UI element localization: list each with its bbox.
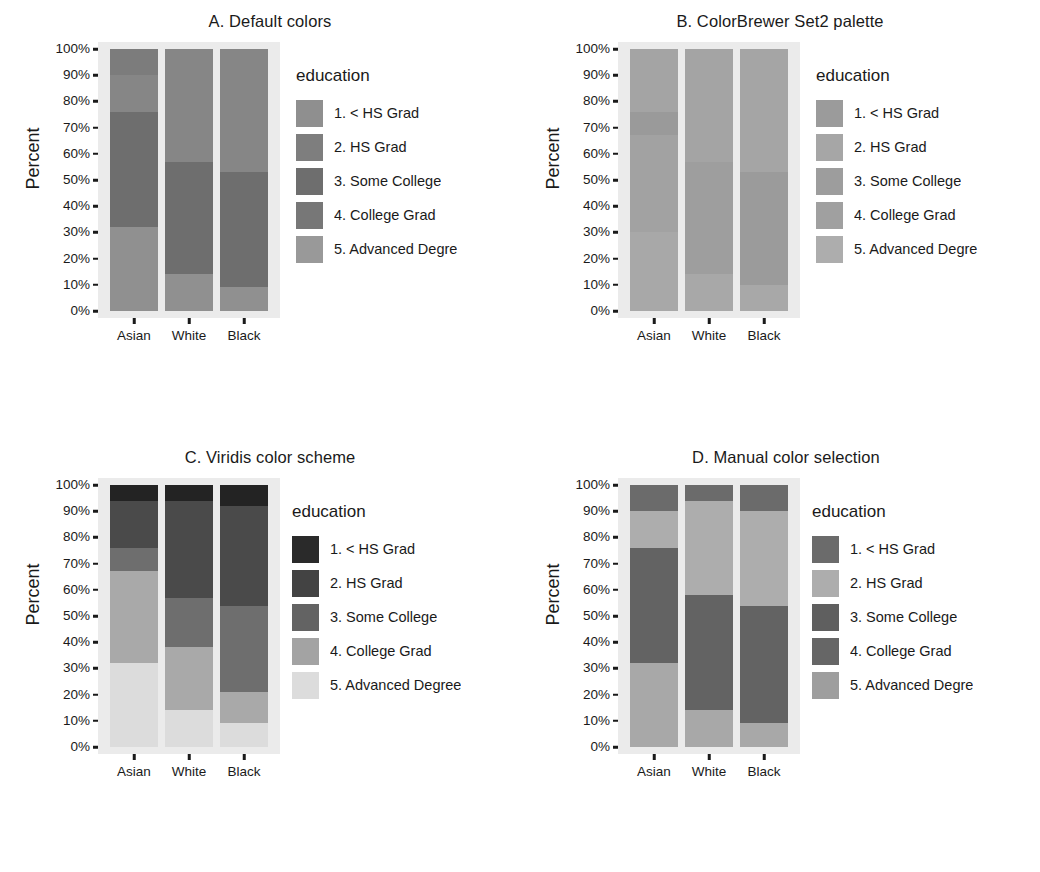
y-tick-label: 30% (63, 226, 90, 240)
stacked-bar-white (685, 49, 733, 311)
y-tick-label: 10% (583, 714, 610, 728)
panel-b: B. ColorBrewer Set2 palette Percent 0%10… (520, 0, 1040, 436)
x-tick-mark (188, 318, 191, 324)
panel-d: D. Manual color selection Percent 0%10%2… (520, 436, 1040, 872)
bar-segment (740, 49, 788, 172)
panel-a: A. Default colors Percent 0%10%20%30%40%… (0, 0, 520, 436)
legend-swatch (816, 100, 843, 127)
panel-d-legend: education 1. < HS Grad2. HS Grad3. Some … (812, 502, 1030, 702)
bar-segment (685, 162, 733, 275)
y-tick-label: 60% (583, 583, 610, 597)
y-tick-label: 70% (63, 557, 90, 571)
bar-segment (630, 135, 678, 232)
y-tick-label: 10% (63, 278, 90, 292)
bar-segment (685, 485, 733, 501)
x-tick-label: White (172, 764, 207, 779)
legend-row: 5. Advanced Degre (812, 668, 1030, 702)
y-tick-label: 70% (583, 557, 610, 571)
bar-segment (740, 606, 788, 724)
legend-row: 2. HS Grad (812, 566, 1030, 600)
legend-swatch (292, 570, 319, 597)
panel-b-title: B. ColorBrewer Set2 palette (520, 12, 1040, 31)
y-tick-label: 40% (63, 199, 90, 213)
panel-c-legend: education 1. < HS Grad2. HS Grad3. Some … (292, 502, 510, 702)
y-tick-label: 40% (583, 635, 610, 649)
legend-title: education (812, 502, 1030, 522)
legend-swatch (296, 236, 323, 263)
y-tick-label: 0% (590, 740, 610, 754)
x-tick-label: White (172, 328, 207, 343)
bar-segment (165, 49, 213, 162)
legend-swatch (816, 168, 843, 195)
y-tick-label: 30% (63, 662, 90, 676)
x-tick-mark (133, 318, 136, 324)
stacked-bar-white (165, 485, 213, 747)
legend-row: 4. College Grad (296, 198, 514, 232)
panel-d-plot-area (618, 478, 800, 754)
bar-segment (740, 172, 788, 285)
x-tick-mark (708, 754, 711, 760)
y-tick-label: 90% (63, 504, 90, 518)
stacked-bar-asian (630, 485, 678, 747)
panel-c-y-axis: 0%10%20%30%40%50%60%70%80%90%100% (50, 485, 98, 747)
legend-title: education (296, 66, 514, 86)
legend-label: 3. Some College (854, 173, 961, 189)
stacked-bar-asian (110, 49, 158, 311)
bar-segment (740, 485, 788, 511)
legend-swatch (292, 672, 319, 699)
bar-segment (685, 710, 733, 747)
bar-segment (220, 172, 268, 287)
legend-row: 1. < HS Grad (812, 532, 1030, 566)
y-tick-label: 80% (63, 531, 90, 545)
panel-c-y-axis-label: Percent (23, 530, 44, 660)
panel-b-y-axis-label: Percent (543, 94, 564, 224)
bar-segment (630, 485, 678, 511)
panel-d-title: D. Manual color selection (520, 448, 1040, 467)
legend-label: 5. Advanced Degre (334, 241, 457, 257)
legend-label: 5. Advanced Degree (330, 677, 461, 693)
panel-d-x-axis: AsianWhiteBlack (618, 754, 800, 788)
bar-segment (740, 285, 788, 311)
legend-row: 3. Some College (296, 164, 514, 198)
legend-label: 1. < HS Grad (850, 541, 935, 557)
legend-label: 3. Some College (330, 609, 437, 625)
bar-segment (220, 692, 268, 723)
bar-segment (110, 571, 158, 663)
legend-swatch (812, 672, 839, 699)
legend-swatch (292, 536, 319, 563)
x-tick-label: Asian (637, 764, 671, 779)
legend-items: 1. < HS Grad2. HS Grad3. Some College4. … (296, 96, 514, 266)
y-tick-label: 20% (63, 252, 90, 266)
y-tick-label: 60% (583, 147, 610, 161)
legend-row: 5. Advanced Degree (292, 668, 510, 702)
legend-row: 3. Some College (292, 600, 510, 634)
panel-c-x-axis: AsianWhiteBlack (98, 754, 280, 788)
bar-segment (110, 112, 158, 227)
y-tick-label: 100% (55, 478, 90, 492)
panel-d-y-axis: 0%10%20%30%40%50%60%70%80%90%100% (570, 485, 618, 747)
y-tick-label: 70% (583, 121, 610, 135)
bar-segment (110, 485, 158, 501)
stacked-bar-black (740, 485, 788, 747)
legend-row: 2. HS Grad (816, 130, 1034, 164)
x-tick-mark (188, 754, 191, 760)
panel-b-legend: education 1. < HS Grad2. HS Grad3. Some … (816, 66, 1034, 266)
legend-swatch (816, 202, 843, 229)
bar-segment (110, 663, 158, 747)
legend-label: 2. HS Grad (330, 575, 403, 591)
y-tick-label: 90% (583, 68, 610, 82)
x-tick-mark (763, 754, 766, 760)
stacked-bar-asian (110, 485, 158, 747)
legend-items: 1. < HS Grad2. HS Grad3. Some College4. … (292, 532, 510, 702)
bar-segment (630, 511, 678, 548)
stacked-bar-white (685, 485, 733, 747)
y-tick-label: 0% (70, 740, 90, 754)
bar-segment (220, 506, 268, 606)
y-tick-label: 0% (70, 304, 90, 318)
bar-segment (220, 723, 268, 747)
bar-segment (630, 548, 678, 663)
legend-swatch (296, 168, 323, 195)
stacked-bar-asian (630, 49, 678, 311)
legend-row: 4. College Grad (812, 634, 1030, 668)
x-tick-label: Asian (117, 328, 151, 343)
